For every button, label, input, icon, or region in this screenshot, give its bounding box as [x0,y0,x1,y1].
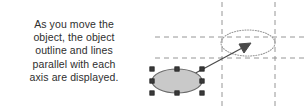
diagram-svg [0,0,308,111]
screenshot-root: As you move the object, the object outli… [0,0,308,111]
arrow-head [239,43,251,53]
handle-middle-right[interactable] [200,79,204,83]
handle-bottom-left[interactable] [150,91,154,95]
handle-top-left[interactable] [150,67,154,71]
handle-top-right[interactable] [200,67,204,71]
handle-bottom-right[interactable] [200,91,204,95]
handle-bottom-center[interactable] [175,91,179,95]
selected-ellipse[interactable] [152,69,202,93]
diagram-canvas [0,0,308,111]
handle-top-center[interactable] [175,67,179,71]
handle-middle-left[interactable] [150,79,154,83]
